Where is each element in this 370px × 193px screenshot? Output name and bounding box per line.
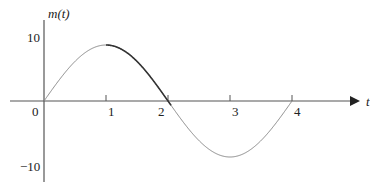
chart: m(t) t 10 0 −10 1 2 3 4 [0, 0, 370, 193]
x-axis-arrow-icon [350, 96, 360, 106]
sine-curve-highlight [106, 45, 171, 105]
x-tick-1: 1 [108, 104, 115, 119]
y-tick-neg10: −10 [20, 159, 40, 174]
x-tick-3: 3 [232, 104, 239, 119]
x-axis-label: t [366, 94, 370, 109]
x-tick-4: 4 [294, 104, 301, 119]
origin-label: 0 [32, 104, 39, 119]
y-axis-label: m(t) [48, 6, 70, 21]
y-tick-10: 10 [27, 30, 40, 45]
x-tick-2: 2 [158, 104, 165, 119]
